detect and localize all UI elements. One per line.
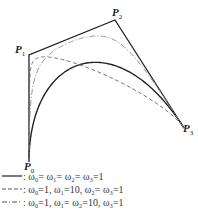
control-polygon <box>29 20 184 162</box>
control-point-label-p2: P2 <box>112 7 122 21</box>
legend-row-solid: : ω₀= ω₁= ω₂= ω₃=1 <box>2 170 104 182</box>
bezier-diagram <box>0 0 198 168</box>
control-point-label-p1: P1 <box>15 44 25 58</box>
dashdot-line-icon <box>2 199 22 205</box>
legend-text-dashdot: : ω₀=1, ω₁= ω₂=10, ω₃=1 <box>23 197 124 208</box>
legend-row-dashed: : ω₀=1, ω₁=10, ω₂= ω₃=1 <box>2 183 124 195</box>
legend-text-dashed: : ω₀=1, ω₁=10, ω₂= ω₃=1 <box>23 184 124 195</box>
curve-equal-weights <box>29 62 184 162</box>
legend-row-dashdot: : ω₀=1, ω₁= ω₂=10, ω₃=1 <box>2 196 124 208</box>
solid-line-icon <box>2 173 22 179</box>
curve-w1-w2-10 <box>29 36 184 162</box>
dashed-line-icon <box>2 186 22 192</box>
legend-text-solid: : ω₀= ω₁= ω₂= ω₃=1 <box>23 171 104 182</box>
curve-w1-10 <box>29 57 184 162</box>
control-point-label-p3: P3 <box>183 123 193 137</box>
